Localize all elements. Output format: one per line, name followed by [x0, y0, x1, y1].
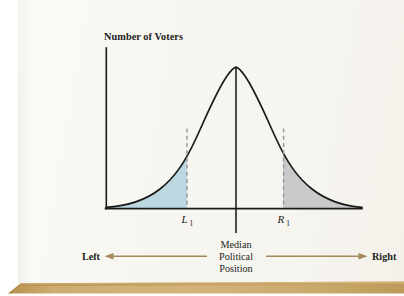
left-arrow-icon: [105, 253, 208, 260]
center-caption: Median Political Position: [219, 239, 253, 274]
figure-page: Number of Voters L 1 R 1 Median Politica…: [0, 0, 404, 296]
l1-sub: 1: [190, 219, 194, 228]
left-tail-shaded-region: [106, 67, 236, 208]
r1-sub: 1: [286, 219, 290, 228]
r1-base: R: [277, 213, 285, 225]
caption-line-3: Position: [219, 263, 252, 274]
l1-tick-label: L 1: [181, 213, 194, 228]
right-end-label: Right: [372, 251, 397, 262]
right-tail-shaded-region: [236, 67, 362, 208]
voter-distribution-figure: Number of Voters L 1 R 1 Median Politica…: [0, 0, 404, 296]
book-edge-band: [8, 282, 404, 294]
l1-base: L: [181, 213, 188, 225]
y-axis-title: Number of Voters: [104, 31, 183, 42]
r1-tick-label: R 1: [277, 213, 291, 228]
caption-line-1: Median: [220, 239, 251, 250]
left-end-label: Left: [82, 251, 101, 262]
caption-line-2: Political: [219, 251, 253, 262]
right-arrow-icon: [266, 253, 368, 260]
bell-curve: [106, 67, 362, 207]
